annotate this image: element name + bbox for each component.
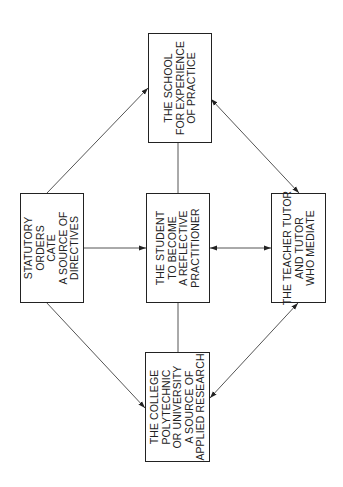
node-college-label: THE COLLEGE POLYTECHNIC OR UNIVERSITY A … [149, 353, 207, 460]
reflective-practitioner-diagram: THE SCHOOL FOR EXPERIENCE OF PRACTICE ST… [0, 0, 343, 487]
edge-teacher-college [210, 303, 298, 398]
node-statutory-label: STATUTORY ORDERS CATE A SOURCE OF DIRECT… [23, 212, 81, 285]
node-school: THE SCHOOL FOR EXPERIENCE OF PRACTICE [148, 33, 212, 143]
node-statutory: STATUTORY ORDERS CATE A SOURCE OF DIRECT… [20, 193, 84, 303]
node-school-label: THE SCHOOL FOR EXPERIENCE OF PRACTICE [163, 41, 198, 135]
node-teacher-label: THE TEACHER TUTOR AND TUTOR WHO MEDIATE [281, 191, 316, 305]
node-student-label: THE STUDENT TO BECOME A REFLECTIVE PRACT… [155, 208, 201, 287]
node-student: THE STUDENT TO BECOME A REFLECTIVE PRACT… [146, 193, 210, 303]
node-teacher: THE TEACHER TUTOR AND TUTOR WHO MEDIATE [271, 193, 326, 303]
edge-school-teacher [211, 99, 299, 193]
edge-statutory-school [47, 88, 148, 193]
edge-statutory-college [46, 302, 145, 408]
node-college: THE COLLEGE POLYTECHNIC OR UNIVERSITY A … [145, 352, 210, 462]
